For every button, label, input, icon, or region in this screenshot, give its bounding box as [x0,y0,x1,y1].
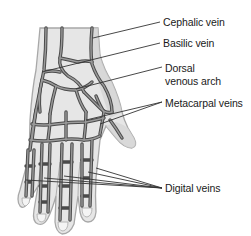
hand-veins-diagram: Cephalic vein Basilic vein Dorsal venous… [0,0,251,236]
label-basilic-vein: Basilic vein [163,37,214,49]
label-digital-veins: Digital veins [165,182,220,194]
label-cephalic-vein: Cephalic vein [163,16,225,28]
leader-cephalic [93,22,160,38]
label-metacarpal-veins: Metacarpal veins [165,97,243,109]
label-dorsal-venous-arch-line2: venous arch [165,75,221,87]
label-dorsal-venous-arch-line1: Dorsal [165,62,195,74]
hand-illustration [0,0,251,236]
